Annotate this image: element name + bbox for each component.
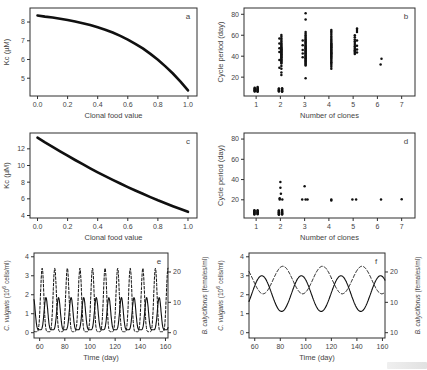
panel-letter: c: [186, 137, 190, 146]
y-tick-label: 6: [21, 195, 25, 202]
panel-f-timeseries: 608010012014016001234101020Time (day)C. …: [214, 245, 427, 370]
x-tick-label: 0.4: [93, 101, 103, 108]
scatter-point: [379, 63, 382, 66]
series-line: [249, 276, 385, 312]
y-tick-label: 4: [240, 253, 244, 260]
scatter-point: [281, 87, 284, 90]
y-axis-title: Kc (µM): [2, 38, 11, 65]
scatter-point: [356, 44, 359, 47]
chart-e-svg: 60801001201401600123401020Time (day)C. v…: [0, 245, 214, 370]
x-tick-label: 0.6: [123, 223, 133, 230]
y-tick-label: 4: [25, 253, 29, 260]
scan-artifact-smudge: [387, 362, 427, 369]
x-tick-label: 80: [61, 343, 69, 350]
x-tick-label: 4: [327, 223, 331, 230]
y-tick-label: 5: [21, 75, 25, 82]
panel-letter: d: [404, 137, 408, 146]
scatter-point: [256, 86, 259, 89]
x-tick-label: 3: [303, 101, 307, 108]
y-axis-title: Kc (µM): [2, 162, 11, 189]
x-tick-label: 5: [351, 223, 355, 230]
scatter-point: [351, 198, 354, 201]
panel-letter: a: [186, 12, 191, 21]
y-tick-label: 60: [231, 32, 239, 39]
axis-frame: [34, 253, 168, 338]
scatter-point: [380, 198, 383, 201]
scatter-point: [278, 37, 281, 40]
x-tick-label: 60: [251, 343, 259, 350]
y-tick-label: 1: [25, 310, 29, 317]
right-y-axis-title: B. calyciflorus (females/ml): [201, 257, 209, 335]
series-line: [34, 268, 168, 332]
x-axis-title: Clonal food value: [85, 233, 143, 242]
scatter-point: [280, 192, 283, 195]
scatter-point: [281, 209, 284, 212]
y-tick-label: 20: [231, 196, 239, 203]
right-y-tick-label: 10: [390, 329, 398, 336]
right-y-tick-label: 20: [390, 268, 398, 275]
axis-frame: [244, 133, 415, 218]
scatter-point: [400, 198, 403, 201]
y-axis-title: Cycle period (day): [216, 145, 225, 206]
x-tick-label: 2: [278, 223, 282, 230]
series-line: [34, 298, 168, 330]
scatter-point: [301, 198, 304, 201]
scatter-point: [278, 47, 281, 50]
scatter-point: [278, 59, 281, 62]
x-tick-label: 1.0: [183, 101, 193, 108]
scatter-point: [301, 56, 304, 59]
scatter-point: [301, 39, 304, 42]
x-tick-label: 0.8: [153, 101, 163, 108]
y-tick-label: 0: [25, 329, 29, 336]
y-tick-label: 12: [17, 145, 25, 152]
scatter-point: [280, 34, 283, 37]
x-tick-label: 6: [375, 223, 379, 230]
right-y-tick-label: 20: [173, 268, 181, 275]
x-tick-label: 120: [109, 343, 121, 350]
scatter-point: [306, 198, 309, 201]
x-tick-label: 0.2: [63, 101, 73, 108]
scatter-point: [304, 18, 307, 21]
x-tick-label: 5: [351, 101, 355, 108]
scatter-point: [356, 48, 359, 51]
panel-letter: b: [404, 12, 409, 21]
chart-d-svg: 123456720406080Number of clonesCycle per…: [214, 122, 427, 245]
chart-f-svg: 608010012014016001234101020Time (day)C. …: [214, 245, 427, 370]
scatter-point: [304, 77, 307, 80]
x-tick-label: 1: [254, 101, 258, 108]
y-axis-title: C. vulgaris (106 cells/ml): [215, 260, 225, 330]
right-y-tick-label: 10: [390, 299, 398, 306]
scatter-point: [303, 185, 306, 188]
y-tick-label: 2: [25, 291, 29, 298]
y-tick-label: 1: [240, 310, 244, 317]
x-axis-title: Number of clones: [300, 233, 359, 242]
y-tick-label: 80: [231, 135, 239, 142]
y-tick-label: 2: [240, 291, 244, 298]
x-tick-label: 6: [375, 101, 379, 108]
x-tick-label: 1.0: [183, 223, 193, 230]
y-tick-label: 3: [240, 272, 244, 279]
scatter-point: [278, 87, 281, 90]
y-tick-label: 60: [231, 156, 239, 163]
x-tick-label: 3: [303, 223, 307, 230]
y-tick-label: 4: [21, 212, 25, 219]
y-tick-label: 3: [25, 272, 29, 279]
x-tick-label: 0.8: [153, 223, 163, 230]
scatter-point: [355, 198, 358, 201]
x-tick-label: 60: [36, 343, 44, 350]
axis-frame: [30, 8, 197, 96]
y-tick-label: 40: [231, 53, 239, 60]
series-line: [249, 266, 385, 294]
scatter-point: [280, 74, 283, 77]
x-axis-title: Time (day): [299, 353, 335, 362]
scatter-point: [278, 42, 281, 45]
scatter-point: [278, 66, 281, 69]
scatter-point: [278, 51, 281, 54]
scatter-point: [304, 12, 307, 15]
series-line: [38, 16, 189, 91]
scatter-point: [278, 209, 281, 212]
scatter-point: [301, 44, 304, 47]
y-tick-label: 8: [21, 18, 25, 25]
scatter-point: [330, 198, 333, 201]
x-tick-label: 140: [134, 343, 146, 350]
